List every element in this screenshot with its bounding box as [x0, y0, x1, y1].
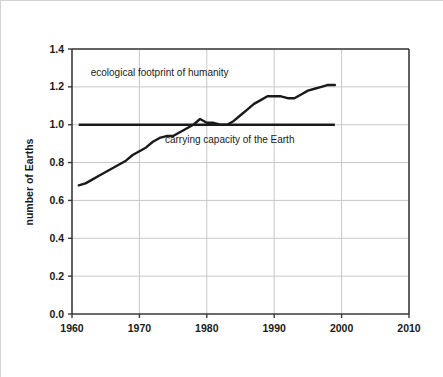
- y-tick-label: 1.4: [49, 43, 64, 55]
- x-tick-label: 1990: [263, 322, 287, 334]
- y-tick-label: 0.0: [49, 308, 64, 320]
- y-tick-label: 0.8: [49, 156, 64, 168]
- y-tick-label: 0.4: [49, 232, 64, 244]
- y-tick-label: 0.6: [49, 194, 64, 206]
- y-tick-label: 0.2: [49, 270, 64, 282]
- x-tick-label: 2010: [397, 322, 421, 334]
- ecological-footprint-line-chart: 0.00.20.40.60.81.01.21.4 196019701980199…: [1, 1, 443, 377]
- x-tick-label: 1960: [60, 322, 84, 334]
- y-axis-title: number of Earths: [23, 138, 35, 225]
- x-tick-label: 2000: [330, 322, 354, 334]
- y-tick-label: 1.2: [49, 80, 64, 92]
- footprint-label: ecological footprint of humanity: [91, 67, 229, 78]
- x-tick-label: 1970: [128, 322, 152, 334]
- carrying-capacity-label: carrying capacity of the Earth: [165, 134, 295, 145]
- chart-figure: 0.00.20.40.60.81.01.21.4 196019701980199…: [0, 0, 443, 377]
- y-tick-label: 1.0: [49, 118, 64, 130]
- x-tick-label: 1980: [195, 322, 219, 334]
- chart-background: [1, 1, 443, 377]
